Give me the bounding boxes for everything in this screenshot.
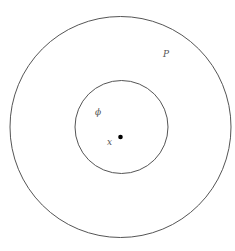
- outer-region-label: P: [162, 49, 170, 59]
- point-label: x: [107, 137, 112, 147]
- center-point: [118, 135, 123, 140]
- diagram-canvas: P ϕ x: [0, 0, 235, 251]
- outer-circle: [10, 17, 231, 238]
- inner-circle: [75, 81, 168, 174]
- inner-region-label: ϕ: [95, 107, 101, 117]
